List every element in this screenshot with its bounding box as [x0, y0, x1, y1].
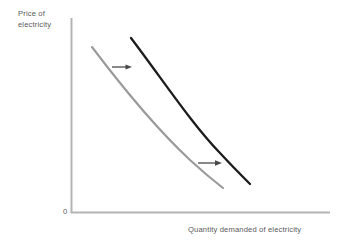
chart-axes	[71, 18, 330, 213]
demand-curve-chart: Price of electricity Quantity demanded o…	[0, 0, 337, 242]
origin-label: 0	[63, 207, 67, 216]
chart-canvas	[0, 0, 337, 242]
shift-arrow-lower	[198, 160, 222, 165]
x-axis-label: Quantity demanded of electricity	[188, 225, 301, 236]
y-axis-label-line2: electricity	[18, 20, 51, 31]
shift-arrow-upper	[112, 64, 132, 69]
demand-curve-original-path	[92, 47, 223, 188]
demand-curve-shifted-path	[131, 38, 250, 184]
y-axis-label: Price of electricity	[18, 9, 51, 30]
y-axis-label-line1: Price of	[18, 9, 51, 20]
